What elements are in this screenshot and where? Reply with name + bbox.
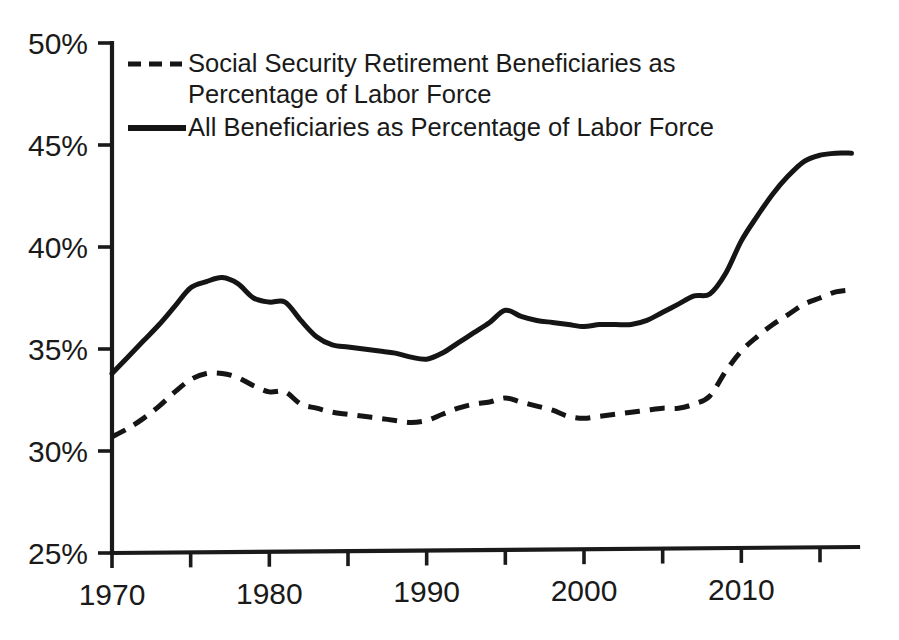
y-axis-tick-label: 35%: [28, 333, 88, 366]
legend-dashed-line-icon: [126, 48, 188, 78]
legend-label-social-security-retirement: Social Security Retirement Beneficiaries…: [188, 48, 798, 110]
chart-container: 50%45%40%35%30%25% 19701980199020002010 …: [0, 0, 899, 640]
x-axis-tick-label: 1970: [79, 578, 146, 611]
x-axis-line: [112, 547, 858, 553]
y-axis-tick-label: 45%: [28, 129, 88, 162]
series-line-social-security-retirement: [112, 290, 851, 437]
legend-solid-line-icon: [126, 112, 188, 142]
x-axis: [112, 536, 858, 568]
x-axis-tick-label: 2010: [708, 573, 775, 606]
legend-entry-all-beneficiaries: All Beneficiaries as Percentage of Labor…: [126, 112, 826, 143]
y-axis-tick-label: 30%: [28, 435, 88, 468]
x-axis-tick-label: 1990: [393, 575, 460, 608]
y-axis-tick-label: 25%: [28, 537, 88, 570]
x-axis-tick-label: 2000: [551, 574, 618, 607]
series-line-all-beneficiaries: [112, 153, 851, 373]
y-axis-tick-label: 40%: [28, 231, 88, 264]
y-axis-tick-label: 50%: [28, 27, 88, 60]
legend-label-all-beneficiaries: All Beneficiaries as Percentage of Labor…: [188, 112, 714, 143]
chart-legend: Social Security Retirement Beneficiaries…: [126, 48, 826, 145]
y-axis-tick-labels: 50%45%40%35%30%25%: [28, 27, 88, 570]
x-axis-tick-label: 1980: [236, 577, 303, 610]
data-series-layer: [112, 153, 851, 437]
legend-entry-social-security-retirement: Social Security Retirement Beneficiaries…: [126, 48, 826, 110]
y-axis: [98, 43, 112, 553]
x-axis-tick-labels: 19701980199020002010: [79, 573, 775, 611]
